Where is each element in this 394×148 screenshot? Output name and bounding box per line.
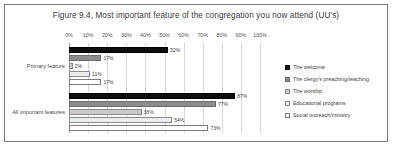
bar[interactable] [69,55,101,61]
legend-label: The clergy's preaching/teaching [293,76,369,82]
legend-item[interactable]: The welcome [285,61,389,73]
legend-item[interactable]: Social outreach/ministry [285,109,389,121]
bar-value-label: 87% [237,93,247,99]
legend-item[interactable]: The clergy's preaching/teaching [285,73,389,85]
x-axis-tick: 70% [197,32,208,38]
x-axis-tick: 50% [159,32,170,38]
category-label: All important features [12,109,65,115]
bar-value-label: 2% [75,63,82,69]
bar[interactable] [69,101,216,107]
x-axis-tick: 80% [216,32,227,38]
bar[interactable] [69,71,90,77]
bar-value-label: 38% [144,109,154,115]
bar[interactable] [69,93,235,99]
bar-value-label: 73% [210,125,220,131]
bar-row: 52% [69,47,260,53]
bar[interactable] [69,47,168,53]
x-axis-tick: 10% [83,32,94,38]
bar-row: 73% [69,125,260,131]
x-axis-tick: 20% [102,32,113,38]
plot-area: Primary feature52%17%2%11%17%All importa… [69,43,260,133]
gridline [260,43,261,133]
legend-label: Educational programs [293,100,345,106]
x-axis-tick: 40% [140,32,151,38]
bar-row: 38% [69,109,260,115]
category-label: Primary feature [27,63,65,69]
bar-row: 87% [69,93,260,99]
bar-value-label: 11% [92,71,102,77]
legend-label: Social outreach/ministry [293,112,350,118]
bar-row: 11% [69,71,260,77]
x-axis-tick-labels: 0%10%20%30%40%50%60%70%80%90%100% [69,32,260,42]
bar[interactable] [69,109,142,115]
chart-legend: The welcomeThe clergy's preaching/teachi… [285,61,389,121]
legend-item[interactable]: Educational programs [285,97,389,109]
bar-value-label: 17% [103,55,113,61]
bar-row: 17% [69,55,260,61]
bar[interactable] [69,117,172,123]
bar-row: 54% [69,117,260,123]
bar[interactable] [69,63,73,69]
legend-swatch-icon [285,101,290,106]
bar[interactable] [69,79,101,85]
x-axis-tick: 60% [178,32,189,38]
x-axis-tick: 90% [236,32,247,38]
chart-title: Figure 9.4, Most important feature of th… [5,11,387,20]
chart-container: Figure 9.4, Most important feature of th… [4,4,388,142]
x-axis-tick: 100% [253,32,267,38]
bar-value-label: 77% [218,101,228,107]
bar[interactable] [69,125,208,131]
bar-row: 2% [69,63,260,69]
x-axis-tick: 30% [121,32,132,38]
legend-item[interactable]: The worship [285,85,389,97]
bar-row: 17% [69,79,260,85]
legend-swatch-icon [285,65,290,70]
legend-label: The worship [293,88,322,94]
legend-swatch-icon [285,89,290,94]
bar-row: 77% [69,101,260,107]
legend-label: The welcome [293,64,325,70]
bar-value-label: 17% [103,79,113,85]
legend-swatch-icon [285,113,290,118]
legend-swatch-icon [285,77,290,82]
x-axis-tick: 0% [65,32,73,38]
bar-value-label: 52% [170,47,180,53]
bar-value-label: 54% [174,117,184,123]
